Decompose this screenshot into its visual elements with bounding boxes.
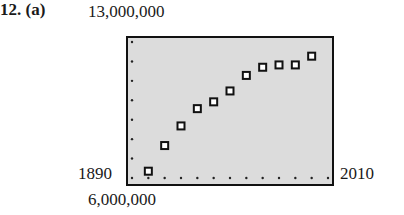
y-tick-dot	[131, 99, 133, 101]
x-tick-dot	[310, 177, 312, 179]
y-tick-dot	[131, 119, 133, 121]
plot-canvas	[128, 38, 332, 184]
x-tick-dot	[163, 177, 165, 179]
y-tick-dot	[131, 138, 133, 140]
x-max-label: 2010	[340, 164, 374, 184]
data-point-square-icon	[178, 122, 185, 129]
x-tick-dot	[131, 177, 133, 179]
y-tick-dot	[131, 157, 133, 159]
x-tick-dot	[147, 177, 149, 179]
x-tick-dot	[245, 177, 247, 179]
data-point-square-icon	[194, 105, 201, 112]
x-tick-dot	[278, 177, 280, 179]
problem-label: 12. (a)	[0, 0, 45, 20]
x-tick-dot	[294, 177, 296, 179]
y-tick-dot	[131, 41, 133, 43]
data-point-square-icon	[210, 98, 217, 105]
data-point-square-icon	[259, 64, 266, 71]
x-tick-dot	[229, 177, 231, 179]
data-point-square-icon	[243, 72, 250, 79]
x-tick-dot	[180, 177, 182, 179]
data-point-square-icon	[276, 61, 283, 68]
data-point-square-icon	[292, 61, 299, 68]
x-tick-dot	[212, 177, 214, 179]
data-point-square-icon	[308, 53, 315, 60]
scatter-plot-window	[126, 36, 334, 186]
problem-part: (a)	[26, 0, 46, 19]
data-point-square-icon	[145, 168, 152, 175]
y-tick-dot	[131, 80, 133, 82]
x-tick-dot	[261, 177, 263, 179]
x-min-label: 1890	[78, 164, 112, 184]
y-min-label: 6,000,000	[88, 190, 156, 210]
data-point-square-icon	[227, 87, 234, 94]
x-tick-dot	[327, 177, 329, 179]
y-max-label: 13,000,000	[88, 2, 165, 22]
x-tick-dot	[196, 177, 198, 179]
problem-number: 12.	[0, 0, 21, 19]
y-tick-dot	[131, 60, 133, 62]
data-point-square-icon	[161, 142, 168, 149]
